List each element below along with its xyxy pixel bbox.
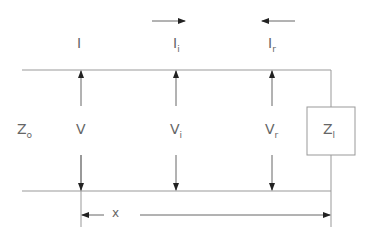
current-label-reflected: Ir	[268, 36, 276, 50]
distance-label: x	[112, 207, 119, 219]
voltage-label-incident: Vi	[170, 122, 182, 136]
current-label-incident: Ii	[173, 36, 180, 50]
voltage-label-total: V	[76, 122, 86, 136]
source-impedance-label: Zo	[17, 122, 32, 136]
voltage-label-reflected: Vr	[265, 122, 278, 136]
load-impedance-label: Zl	[323, 122, 335, 136]
current-label-total: I	[77, 36, 81, 50]
transmission-line-diagram	[0, 0, 374, 241]
